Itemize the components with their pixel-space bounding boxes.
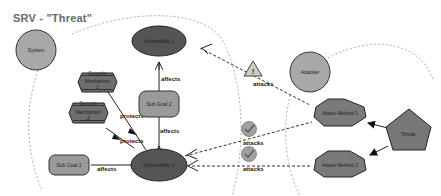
svg-text:Security: Security <box>88 70 107 76</box>
node-attacker[interactable]: Attacker <box>290 52 330 92</box>
svg-text:2: 2 <box>87 115 90 121</box>
svg-text:attacks: attacks <box>243 166 264 172</box>
edge-v1-affects-sg2[interactable]: affects <box>159 62 181 91</box>
node-attack-method-2[interactable]: Attack Method 2 <box>314 151 366 177</box>
edge-threat-am2[interactable] <box>370 146 388 155</box>
svg-text:Vulnerability 2: Vulnerability 2 <box>143 162 174 168</box>
node-security-mechanism-1[interactable]: Security Mechanism 1 <box>78 70 117 92</box>
node-vulnerability-2[interactable]: Vulnerability 2 <box>131 149 187 181</box>
node-security-mechanism-2[interactable]: Security Mechanism 2 <box>69 100 108 123</box>
svg-text:attacks: attacks <box>243 140 264 146</box>
svg-text:System: System <box>28 47 45 53</box>
svg-text:Threat: Threat <box>401 131 416 137</box>
svg-text:affects: affects <box>160 128 180 134</box>
edge-threat-am1[interactable] <box>368 123 388 128</box>
node-vulnerability-1[interactable]: Vulnerability 1 <box>132 26 186 56</box>
svg-text:!: ! <box>252 67 255 76</box>
check-circle-icon <box>242 122 257 137</box>
diagram-canvas: affects affects affects protects protect… <box>0 0 441 196</box>
svg-text:affects: affects <box>161 76 181 82</box>
node-sub-goal-2[interactable]: Sub Goal 2 <box>139 91 179 117</box>
edge-sm2-protects[interactable]: protects <box>106 128 144 148</box>
node-attack-method-1[interactable]: Attack Method 1 <box>314 99 366 126</box>
svg-text:1: 1 <box>96 84 99 90</box>
edge-v2-affects-sg1[interactable]: affects <box>91 165 131 172</box>
svg-text:Attack Method 1: Attack Method 1 <box>322 110 358 116</box>
node-sub-goal-1[interactable]: Sub Goal 1 <box>49 155 89 175</box>
svg-text:Attack Method 2: Attack Method 2 <box>322 162 358 168</box>
svg-text:Security: Security <box>79 100 98 106</box>
svg-text:attacks: attacks <box>253 81 274 87</box>
node-threat[interactable]: Threat <box>386 109 431 150</box>
svg-text:affects: affects <box>97 166 117 172</box>
warning-triangle-icon: ! <box>244 61 262 76</box>
svg-text:Sub Goal 1: Sub Goal 1 <box>56 162 81 168</box>
node-system[interactable]: System <box>16 30 56 70</box>
svg-text:protects: protects <box>120 138 144 144</box>
svg-text:Attacker: Attacker <box>301 69 320 75</box>
check-circle-icon <box>242 147 257 162</box>
svg-text:Sub Goal 2: Sub Goal 2 <box>146 101 171 107</box>
edge-sg2-affects-v2[interactable]: affects <box>159 117 180 146</box>
svg-text:Vulnerability 1: Vulnerability 1 <box>143 38 174 44</box>
